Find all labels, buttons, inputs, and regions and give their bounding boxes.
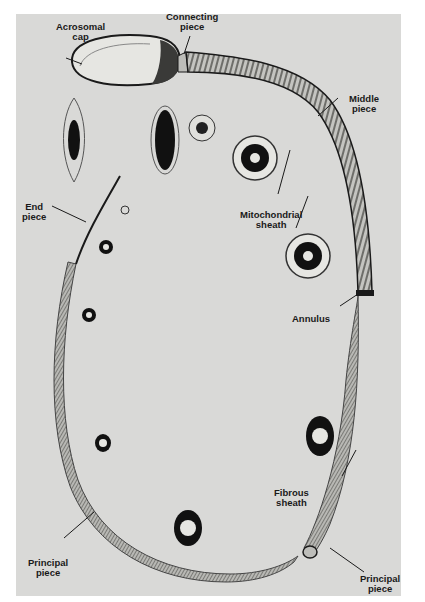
sperm-diagram: Acrosomal cap Connecting piece Middle pi… <box>16 14 401 596</box>
label-end-piece: End piece <box>22 202 46 222</box>
label-fibrous-sheath: Fibrous sheath <box>274 488 309 508</box>
sperm-illustration <box>16 14 401 596</box>
label-acrosomal-cap: Acrosomal cap <box>56 22 105 42</box>
label-annulus: Annulus <box>292 314 330 324</box>
annulus-shape <box>356 290 374 296</box>
middle-piece-shape <box>186 52 372 292</box>
label-principal-piece-right: Principal piece <box>360 574 400 594</box>
label-middle-piece: Middle piece <box>349 94 379 114</box>
label-principal-piece-left: Principal piece <box>28 558 68 578</box>
sperm-head <box>72 35 180 85</box>
tail-cut-end <box>303 546 317 558</box>
label-mitochondrial-sheath: Mitochondrial sheath <box>240 210 302 230</box>
label-connecting-piece: Connecting piece <box>166 12 218 32</box>
